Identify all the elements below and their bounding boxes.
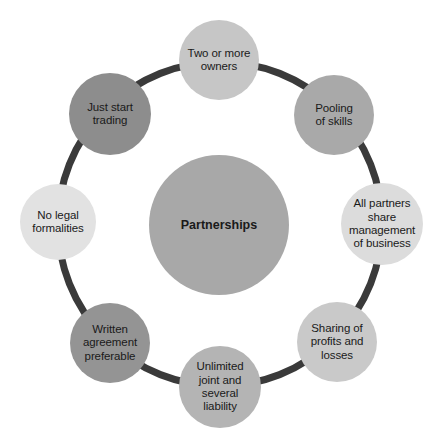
node-two-or-more-owners[interactable]: Two or more owners <box>179 20 259 100</box>
partnerships-cycle-diagram: Two or more owners Pooling of skills All… <box>0 0 433 442</box>
node-written-agreement-preferable[interactable]: Written agreement preferable <box>70 303 150 383</box>
node-label: Written agreement preferable <box>80 323 140 363</box>
node-all-partners-share-management[interactable]: All partners share management of busines… <box>341 183 423 265</box>
node-label: Sharing of profits and losses <box>308 322 367 362</box>
node-label: Unlimited joint and several liability <box>193 360 246 413</box>
center-node-label: Partnerships <box>178 218 260 233</box>
node-sharing-of-profits-and-losses[interactable]: Sharing of profits and losses <box>297 302 377 382</box>
node-label: Two or more owners <box>185 47 254 74</box>
node-just-start-trading[interactable]: Just start trading <box>69 73 151 155</box>
center-node-partnerships[interactable]: Partnerships <box>149 155 289 295</box>
node-label: Pooling of skills <box>312 102 356 129</box>
node-label: All partners share management of busines… <box>346 197 418 250</box>
node-label: Just start trading <box>84 101 136 128</box>
node-pooling-of-skills[interactable]: Pooling of skills <box>294 75 374 155</box>
node-label: No legal formalities <box>29 209 86 236</box>
node-unlimited-joint-and-several-liability[interactable]: Unlimited joint and several liability <box>179 346 261 428</box>
node-no-legal-formalities[interactable]: No legal formalities <box>20 184 96 260</box>
